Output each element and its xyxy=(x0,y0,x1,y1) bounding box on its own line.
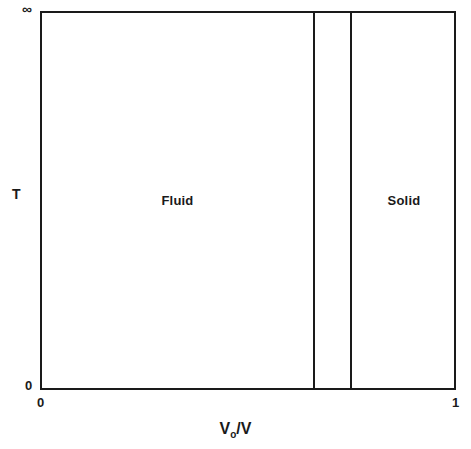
x-axis-title: Vo/V xyxy=(0,420,471,440)
x-axis-tick-max: 1 xyxy=(452,395,459,410)
figure-container: Figure II.15 T ∞ 0 0 1 Fluid Solid Vo/V xyxy=(0,0,471,449)
region-label-solid: Solid xyxy=(350,193,458,208)
phase-boundary-freezing xyxy=(313,13,315,388)
y-axis-tick-max: ∞ xyxy=(22,2,32,16)
y-axis-tick-min: 0 xyxy=(25,378,32,393)
region-label-fluid: Fluid xyxy=(42,193,313,208)
x-axis-title-rest: /V xyxy=(236,420,251,437)
x-axis-title-main: V xyxy=(220,420,231,437)
plot-area: Fluid Solid xyxy=(40,11,456,390)
x-axis-tick-min: 0 xyxy=(37,395,44,410)
y-axis-title: T xyxy=(12,186,21,202)
